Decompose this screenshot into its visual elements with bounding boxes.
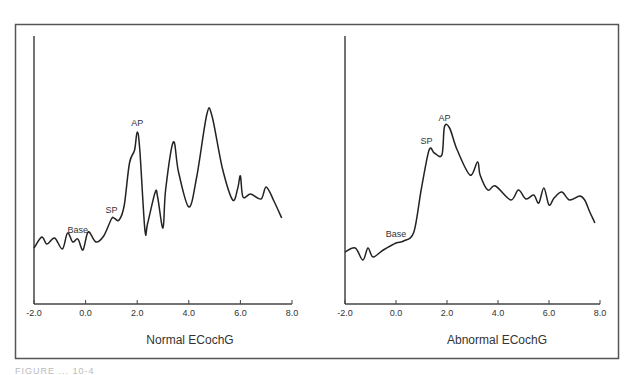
figure-caption-fragment: FIGURE ... 10-4 (15, 366, 95, 375)
peak-label-ap: AP (131, 118, 143, 128)
x-tick-label: 2.0 (441, 308, 454, 318)
x-tick-label: 0.0 (390, 308, 403, 318)
chart-panel-normal: -2.00.02.04.06.08.0BaseSPAPNormal ECochG (26, 36, 298, 347)
panel-title: Normal ECochG (146, 333, 233, 347)
x-tick-label: -2.0 (26, 308, 42, 318)
waveform-line (345, 124, 595, 260)
x-tick-label: 6.0 (543, 308, 556, 318)
x-tick-label: 6.0 (234, 308, 247, 318)
x-tick-label: 4.0 (183, 308, 196, 318)
peak-label-ap: AP (438, 113, 450, 123)
x-tick-label: -2.0 (337, 308, 353, 318)
panel-title: Abnormal ECochG (447, 333, 547, 347)
figure-frame (16, 25, 619, 359)
peak-label-sp: SP (421, 136, 433, 146)
x-tick-label: 4.0 (492, 308, 505, 318)
echochg-figure: -2.00.02.04.06.08.0BaseSPAPNormal ECochG… (0, 0, 632, 375)
peak-label-sp: SP (105, 205, 117, 215)
x-tick-label: 8.0 (286, 308, 299, 318)
x-tick-label: 0.0 (79, 308, 92, 318)
chart-panel-abnormal: -2.00.02.04.06.08.0BaseSPAPAbnormal ECoc… (337, 36, 606, 347)
x-tick-label: 2.0 (131, 308, 144, 318)
peak-label-base: Base (68, 225, 89, 235)
peak-label-base: Base (386, 229, 407, 239)
x-tick-label: 8.0 (594, 308, 607, 318)
